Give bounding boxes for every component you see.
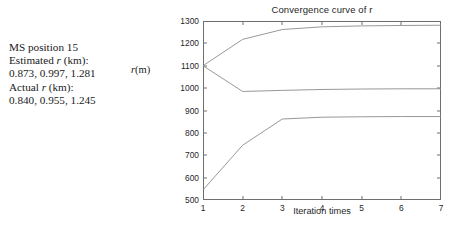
curve-r2	[203, 66, 441, 92]
y-tick-label: 600	[185, 173, 199, 183]
chart-figure: MS position 15 Estimated r (km): 0.873, …	[0, 0, 456, 233]
x-tick-label: 4	[320, 203, 325, 213]
x-tick-label: 5	[359, 203, 364, 213]
x-tick-label: 6	[399, 203, 404, 213]
x-tick-label: 1	[201, 203, 206, 213]
convergence-chart: Convergence curve of r r(m) Iteration ti…	[0, 0, 456, 233]
curve-r3	[203, 25, 441, 66]
y-axis-label: r(m)	[131, 64, 150, 75]
y-tick-label: 1200	[180, 38, 199, 48]
x-tick-label: 7	[439, 203, 444, 213]
plot-area: 1300120011001000900800700600500 1234567	[203, 21, 441, 200]
y-axis-label-unit: (m)	[135, 64, 150, 75]
y-tick-label: 1300	[180, 16, 199, 26]
chart-title: Convergence curve of r	[203, 4, 441, 15]
y-tick-label: 800	[185, 128, 199, 138]
x-tick-label: 3	[280, 203, 285, 213]
x-tick-label: 2	[240, 203, 245, 213]
y-tick-label: 700	[185, 150, 199, 160]
y-tick-label: 1100	[181, 61, 199, 71]
y-tick-label: 1000	[180, 83, 199, 93]
clipped-caption	[62, 226, 398, 230]
y-tick-label: 900	[185, 106, 199, 116]
curve-lines	[203, 21, 441, 200]
y-tick-label: 500	[185, 195, 199, 205]
curve-r1	[203, 117, 441, 190]
